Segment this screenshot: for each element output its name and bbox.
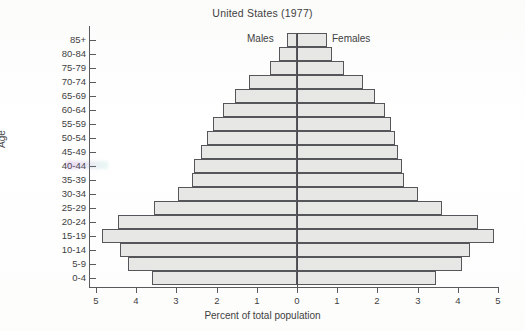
y-tick — [89, 54, 96, 55]
bar-female-40-44 — [297, 159, 402, 173]
bar-male-50-54 — [207, 131, 297, 145]
y-tick-label-5-9: 5-9 — [26, 258, 86, 269]
y-tick-label-60-64: 60-64 — [26, 104, 86, 115]
x-tick — [498, 287, 499, 293]
y-tick — [89, 110, 96, 111]
bar-male-35-39 — [192, 173, 297, 187]
y-tick-label-25-29: 25-29 — [26, 202, 86, 213]
bar-female-70-74 — [297, 75, 363, 89]
y-tick — [89, 222, 96, 223]
bar-male-25-29 — [154, 201, 297, 215]
x-tick — [96, 287, 97, 293]
bar-female-60-64 — [297, 103, 385, 117]
figure-canvas: United States (1977) Age 85+80-8475-7970… — [0, 0, 525, 331]
y-tick — [89, 40, 96, 41]
x-tick-label-6: 1 — [325, 295, 349, 306]
bar-female-5-9 — [297, 257, 462, 271]
x-tick — [458, 287, 459, 293]
bar-female-35-39 — [297, 173, 404, 187]
y-axis-tick-labels: 85+80-8475-7970-7465-6960-6455-5950-5445… — [14, 0, 86, 331]
bar-male-10-14 — [120, 243, 297, 257]
pyramid-center-axis — [297, 33, 298, 287]
bar-female-75-79 — [297, 61, 344, 75]
y-tick — [89, 278, 96, 279]
y-tick — [89, 264, 96, 265]
bar-female-15-19 — [297, 229, 494, 243]
x-axis-spine — [89, 287, 498, 288]
x-tick-label-8: 3 — [406, 295, 430, 306]
bar-male-55-59 — [213, 117, 297, 131]
y-tick — [89, 180, 96, 181]
x-tick-label-1: 4 — [124, 295, 148, 306]
x-tick — [136, 287, 137, 293]
bar-female-0-4 — [297, 271, 436, 285]
bar-male-85plus — [287, 33, 297, 47]
bar-male-70-74 — [249, 75, 297, 89]
y-tick — [89, 194, 96, 195]
bar-female-80-84 — [297, 47, 332, 61]
x-tick — [217, 287, 218, 293]
bar-male-30-34 — [178, 187, 297, 201]
bar-female-65-69 — [297, 89, 375, 103]
y-tick-label-70-74: 70-74 — [26, 76, 86, 87]
bar-male-60-64 — [223, 103, 297, 117]
bar-female-10-14 — [297, 243, 470, 257]
bar-male-40-44 — [194, 159, 297, 173]
bar-male-65-69 — [235, 89, 297, 103]
bar-male-15-19 — [102, 229, 297, 243]
bar-female-30-34 — [297, 187, 418, 201]
y-tick — [89, 96, 96, 97]
y-tick-label-50-54: 50-54 — [26, 132, 86, 143]
series-label-females: Females — [332, 33, 370, 44]
series-label-males: Males — [247, 33, 274, 44]
y-tick-label-85plus: 85+ — [26, 34, 86, 45]
y-tick — [89, 138, 96, 139]
x-axis-title: Percent of total population — [0, 310, 525, 321]
y-tick-label-45-49: 45-49 — [26, 146, 86, 157]
y-tick-label-20-24: 20-24 — [26, 216, 86, 227]
y-tick — [89, 236, 96, 237]
bar-male-0-4 — [152, 271, 297, 285]
y-tick-label-0-4: 0-4 — [26, 272, 86, 283]
y-tick-label-80-84: 80-84 — [26, 48, 86, 59]
y-tick — [89, 152, 96, 153]
x-tick-label-7: 2 — [365, 295, 389, 306]
x-tick — [257, 287, 258, 293]
y-tick — [89, 68, 96, 69]
x-tick-label-0: 5 — [84, 295, 108, 306]
x-tick — [297, 287, 298, 293]
y-tick — [89, 124, 96, 125]
x-tick — [337, 287, 338, 293]
bar-female-55-59 — [297, 117, 391, 131]
y-tick-label-40-44: 40-44 — [26, 160, 86, 171]
bar-female-50-54 — [297, 131, 395, 145]
y-tick-label-75-79: 75-79 — [26, 62, 86, 73]
y-tick-label-35-39: 35-39 — [26, 174, 86, 185]
y-axis-title: Age — [0, 130, 7, 148]
y-tick-label-65-69: 65-69 — [26, 90, 86, 101]
bar-male-45-49 — [201, 145, 297, 159]
y-tick — [89, 166, 96, 167]
x-tick — [377, 287, 378, 293]
y-tick-label-10-14: 10-14 — [26, 244, 86, 255]
bar-female-45-49 — [297, 145, 398, 159]
x-tick-label-5: 0 — [285, 295, 309, 306]
y-tick — [89, 250, 96, 251]
y-tick — [89, 82, 96, 83]
bar-male-75-79 — [270, 61, 297, 75]
x-tick-label-2: 3 — [164, 295, 188, 306]
y-tick — [89, 208, 96, 209]
bar-female-20-24 — [297, 215, 478, 229]
bar-female-25-29 — [297, 201, 442, 215]
x-tick-label-9: 4 — [446, 295, 470, 306]
x-tick — [418, 287, 419, 293]
bar-male-5-9 — [128, 257, 297, 271]
y-tick-label-55-59: 55-59 — [26, 118, 86, 129]
bar-male-80-84 — [279, 47, 297, 61]
bar-female-85plus — [297, 33, 327, 47]
x-tick — [176, 287, 177, 293]
y-tick-label-30-34: 30-34 — [26, 188, 86, 199]
y-axis-spine — [89, 26, 90, 287]
y-tick-label-15-19: 15-19 — [26, 230, 86, 241]
bar-male-20-24 — [118, 215, 297, 229]
